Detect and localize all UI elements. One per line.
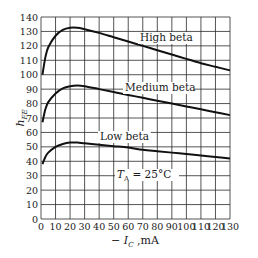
x-tick-label: 20 — [64, 221, 76, 232]
grid — [41, 17, 230, 219]
y-tick-label: 110 — [20, 55, 38, 66]
y-tick-label: 60 — [26, 127, 38, 138]
x-tick-label: 0 — [38, 221, 44, 232]
chart-canvas: 0102030405060708090100110120130140 01020… — [0, 0, 258, 258]
x-axis-ticks: 0102030405060708090100110120130 — [38, 221, 239, 232]
y-tick-label: 30 — [26, 170, 38, 181]
y-tick-label: 50 — [26, 141, 38, 152]
label-low-beta: Low beta — [100, 130, 149, 142]
x-tick-label: 70 — [137, 221, 149, 232]
x-axis-label: − IC ,mA — [111, 234, 160, 249]
y-tick-label: 120 — [20, 40, 38, 51]
x-tick-label: 130 — [221, 221, 239, 232]
x-tick-label: 40 — [93, 221, 105, 232]
y-tick-label: 10 — [26, 199, 38, 210]
label-high-beta: High beta — [140, 31, 193, 43]
curve-high-beta — [42, 28, 230, 75]
y-tick-label: 20 — [26, 185, 38, 196]
x-tick-label: 80 — [151, 221, 163, 232]
y-axis-label: hFE — [14, 109, 29, 126]
curves — [42, 28, 230, 165]
x-tick-label: 30 — [79, 221, 91, 232]
y-tick-label: 100 — [20, 69, 38, 80]
x-tick-label: 90 — [166, 221, 178, 232]
x-tick-label: 10 — [49, 221, 61, 232]
x-tick-label: 60 — [122, 221, 134, 232]
y-tick-label: 90 — [26, 84, 38, 95]
y-tick-label: 140 — [20, 12, 38, 23]
y-tick-label: 80 — [26, 98, 38, 109]
label-medium-beta: Medium beta — [125, 81, 196, 93]
hfe-vs-ic-chart: 0102030405060708090100110120130140 01020… — [0, 0, 258, 258]
y-tick-label: 40 — [26, 156, 38, 167]
x-tick-label: 50 — [108, 221, 120, 232]
y-tick-label: 130 — [20, 26, 38, 37]
